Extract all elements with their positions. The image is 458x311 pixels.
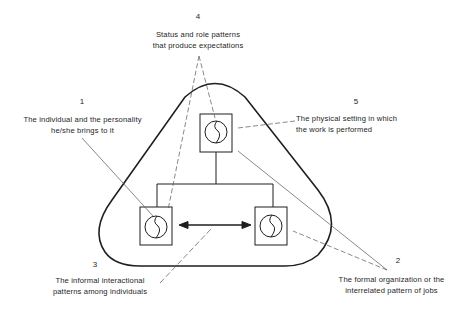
outer-rounded-triangle xyxy=(99,84,332,267)
double-arrow-icon xyxy=(179,222,251,229)
label-3-number: 3 xyxy=(85,260,105,269)
label-4-line2: that produce expectations xyxy=(138,41,258,52)
leader-2b xyxy=(293,231,387,270)
label-1-number: 1 xyxy=(72,97,92,106)
label-5-line2: the work is performed xyxy=(296,125,372,136)
label-4-number: 4 xyxy=(188,12,208,21)
label-3-line2: patterns among individuals xyxy=(40,287,160,298)
org-chart-lines xyxy=(157,152,273,207)
label-2-line1: The formal organization or the xyxy=(325,275,458,286)
label-3-line1: The informal interactional xyxy=(40,276,160,287)
leader-4b xyxy=(168,56,199,210)
label-1-line1: The individual and the personality xyxy=(10,115,155,126)
label-5-line1: The physical setting in which xyxy=(296,114,397,125)
bottom-right-person-icon xyxy=(255,207,287,245)
bottom-left-person-icon xyxy=(140,207,172,245)
label-1-line2: he/she brings to it xyxy=(10,126,155,137)
label-4-line1: Status and role patterns xyxy=(138,30,258,41)
top-person-icon xyxy=(200,114,232,152)
label-2-line2: interrelated pattern of jobs xyxy=(325,286,458,297)
label-2-number: 2 xyxy=(388,256,408,265)
leader-1 xyxy=(82,138,153,216)
label-5-number: 5 xyxy=(346,97,366,106)
